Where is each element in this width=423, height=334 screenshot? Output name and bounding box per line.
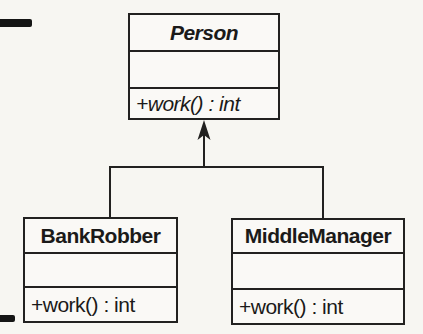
class-box-middlemanager: MiddleManager +work() : int — [231, 218, 405, 325]
method-label-bankrobber: +work() : int — [31, 293, 135, 317]
method-label-person: +work() : int — [136, 92, 240, 116]
uml-class-diagram: Person +work() : int BankRobber +work() … — [0, 0, 423, 334]
class-name-person: Person — [130, 15, 278, 50]
class-box-person: Person +work() : int — [128, 13, 280, 120]
methods-compartment-bankrobber: +work() : int — [25, 286, 176, 321]
class-name-bankrobber: BankRobber — [25, 219, 176, 252]
methods-compartment-middlemanager: +work() : int — [233, 288, 403, 323]
attributes-compartment-person — [130, 50, 278, 87]
class-box-bankrobber: BankRobber +work() : int — [23, 217, 178, 323]
attributes-compartment-bankrobber — [25, 252, 176, 286]
attributes-compartment-middlemanager — [233, 252, 403, 288]
class-name-middlemanager: MiddleManager — [233, 220, 403, 252]
page-margin-tick-top — [0, 19, 32, 27]
page-margin-tick-bottom — [0, 315, 15, 322]
methods-compartment-person: +work() : int — [130, 87, 278, 118]
generalization-arrowhead — [198, 120, 211, 140]
method-label-middlemanager: +work() : int — [239, 295, 343, 319]
